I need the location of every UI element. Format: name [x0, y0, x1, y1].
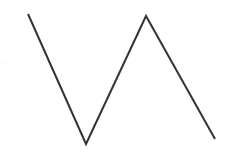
drawing-canvas	[0, 0, 228, 153]
zigzag-drawing	[0, 0, 228, 153]
zigzag-polyline	[28, 14, 215, 144]
stray-speck	[5, 62, 6, 63]
